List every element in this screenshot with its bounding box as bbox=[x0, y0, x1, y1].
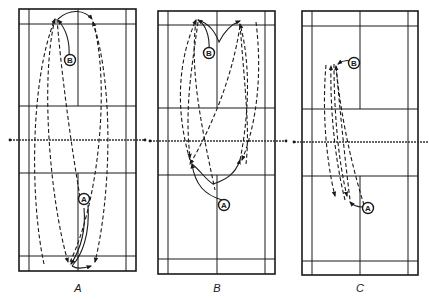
net-b bbox=[149, 140, 288, 143]
svg-text:A: A bbox=[365, 204, 371, 213]
svg-text:B: B bbox=[206, 49, 212, 58]
shuttle-paths-c bbox=[324, 64, 364, 205]
svg-text:A: A bbox=[81, 195, 87, 204]
player-a-marker-a: A bbox=[79, 194, 90, 205]
court-panel-a: B A A bbox=[9, 9, 147, 294]
player-a-marker-b: A bbox=[219, 200, 230, 211]
player-b-marker-b: B bbox=[204, 48, 215, 59]
court-lines-c bbox=[302, 11, 418, 275]
svg-text:A: A bbox=[221, 201, 227, 210]
caption-b: B bbox=[213, 282, 220, 294]
badminton-diagram: B A A bbox=[0, 0, 429, 299]
svg-text:B: B bbox=[67, 56, 73, 65]
court-lines-b bbox=[158, 11, 275, 274]
player-b-marker-a: B bbox=[65, 55, 76, 66]
player-a-marker-c: A bbox=[363, 203, 374, 214]
court-panel-b: B A B bbox=[149, 11, 288, 294]
player-b-marker-c: B bbox=[349, 58, 360, 69]
court-panel-c: B A C bbox=[293, 11, 429, 294]
caption-c: C bbox=[356, 282, 364, 294]
svg-text:B: B bbox=[351, 59, 357, 68]
caption-a: A bbox=[73, 282, 81, 294]
net-c bbox=[293, 141, 429, 144]
